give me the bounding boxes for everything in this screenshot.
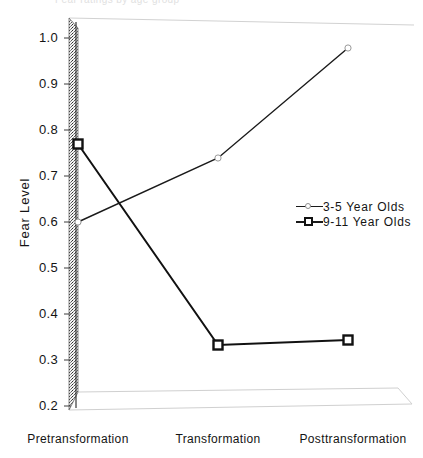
chart-container: Fear ratings by age group <box>0 0 423 458</box>
frame-floor <box>69 388 412 410</box>
series-markers-9-11 <box>74 140 353 350</box>
y-axis-title: Fear Level <box>17 173 32 253</box>
legend-item-3-5: 3-5 Year Olds <box>296 199 422 214</box>
y-tick-label-9: 0.2 <box>18 399 58 412</box>
y-tick-label-6: 0.5 <box>18 261 58 274</box>
frame-side-wall <box>69 18 78 410</box>
y-tick-label-2: 0.9 <box>18 77 58 90</box>
legend-label-9-11: 9-11 Year Olds <box>323 215 411 229</box>
x-tick-label-transformation: Transformation <box>163 432 273 446</box>
legend-item-9-11: 9-11 Year Olds <box>296 214 422 229</box>
series-line-3-5 <box>78 48 348 222</box>
plot-area <box>0 0 423 458</box>
x-tick-label-posttransformation: Posttransformation <box>288 432 418 446</box>
y-tick-label-8: 0.3 <box>18 353 58 366</box>
y-tick-label-7: 0.4 <box>18 307 58 320</box>
legend-marker-square-icon <box>296 215 323 228</box>
series-line-9-11 <box>78 144 348 345</box>
frame-top-edge <box>69 18 414 25</box>
y-tick-label-3: 0.8 <box>18 123 58 136</box>
legend-marker-circle-icon <box>296 200 323 213</box>
chart-legend: 3-5 Year Olds 9-11 Year Olds <box>296 199 422 229</box>
x-tick-label-pretransformation: Pretransformation <box>18 432 138 446</box>
y-tick-label-1: 1.0 <box>18 31 58 44</box>
legend-label-3-5: 3-5 Year Olds <box>323 200 405 214</box>
